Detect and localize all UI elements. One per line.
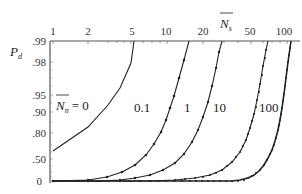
x-tick-label: 20 bbox=[198, 25, 210, 37]
curve-nn-0 bbox=[53, 41, 134, 151]
y-tick-label: .99 bbox=[32, 35, 46, 47]
curve-label-0-1: 0.1 bbox=[134, 100, 150, 115]
curve-label-100: 100 bbox=[259, 100, 279, 115]
curve-nn-1-markers bbox=[119, 51, 220, 181]
x-tick-label: 50 bbox=[245, 25, 257, 37]
x-tick-label: 5 bbox=[129, 25, 135, 37]
chart: 1 2 5 10 20 50 100 Ns .99 .98 .95 .90 .8… bbox=[0, 0, 302, 194]
curve-label-1: 1 bbox=[184, 100, 191, 115]
nn-label: Nn= 0 bbox=[55, 98, 89, 115]
y-tick-label: .90 bbox=[32, 106, 46, 118]
y-axis-title: Pd bbox=[9, 44, 23, 61]
y-tick-label: .95 bbox=[32, 89, 46, 101]
x-tick-label: 2 bbox=[85, 25, 91, 37]
curve-nn-0-1-markers bbox=[87, 59, 186, 182]
y-tick-label: .80 bbox=[32, 127, 46, 139]
y-tick-label: .98 bbox=[32, 56, 46, 68]
y-tick-label: 0 bbox=[37, 175, 43, 187]
x-axis-title: Ns bbox=[219, 16, 232, 33]
x-tick-label: 100 bbox=[276, 25, 293, 37]
x-tick-label: 10 bbox=[161, 25, 173, 37]
curve-label-10: 10 bbox=[213, 100, 226, 115]
y-tick-label: .50 bbox=[32, 153, 46, 165]
x-tick-label: 1 bbox=[50, 25, 56, 37]
curve-nn-10-markers bbox=[174, 49, 267, 181]
